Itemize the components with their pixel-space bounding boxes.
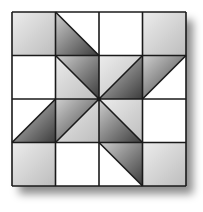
square-patch	[143, 12, 187, 56]
quilt-cell-r0-c2	[99, 12, 143, 56]
quilt-cell-r3-c0	[12, 143, 56, 187]
square-patch	[12, 143, 56, 187]
square-patch	[12, 12, 56, 56]
square-patch	[12, 56, 56, 100]
quilt-cell-r3-c1	[56, 143, 100, 187]
center-point	[97, 97, 101, 101]
square-patch	[56, 143, 100, 187]
quilt-cell-r1-c0	[12, 56, 56, 100]
square-patch	[143, 99, 187, 143]
quilt-cell-r3-c3	[143, 143, 187, 187]
quilt-block-diagram	[0, 0, 203, 212]
quilt-svg	[0, 0, 203, 212]
quilt-cell-r0-c3	[143, 12, 187, 56]
square-patch	[99, 12, 143, 56]
quilt-cell-r0-c0	[12, 12, 56, 56]
square-patch	[143, 143, 187, 187]
quilt-cell-r2-c3	[143, 99, 187, 143]
